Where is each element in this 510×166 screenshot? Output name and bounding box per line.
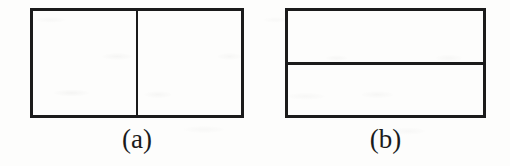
figure-a-caption: (a) — [97, 126, 177, 153]
figure-b-caption: (b) — [346, 126, 426, 153]
figure-canvas: (a) (b) — [0, 0, 510, 166]
figure-a-vertical-divider — [136, 8, 138, 118]
figure-b-horizontal-divider — [285, 62, 486, 65]
